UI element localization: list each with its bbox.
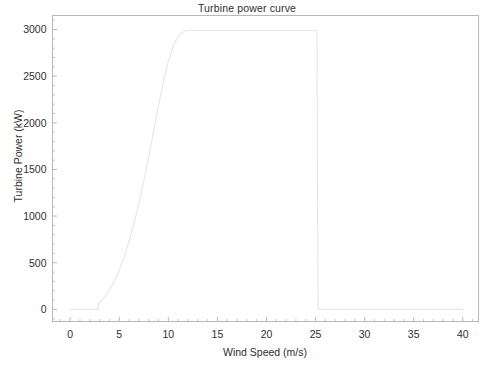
svg-text:3000: 3000 [23, 23, 47, 35]
svg-text:2000: 2000 [23, 117, 47, 129]
svg-text:20: 20 [261, 328, 273, 340]
svg-text:5: 5 [116, 328, 122, 340]
svg-text:1500: 1500 [23, 163, 47, 175]
svg-text:0: 0 [67, 328, 73, 340]
svg-text:2500: 2500 [23, 70, 47, 82]
svg-text:30: 30 [359, 328, 371, 340]
chart-figure: Turbine power curve Turbine Power (kW) W… [0, 0, 494, 366]
svg-text:15: 15 [212, 328, 224, 340]
svg-text:40: 40 [457, 328, 469, 340]
minor-ticks [53, 20, 473, 321]
plot-area: 0510152025303540050010001500200025003000 [0, 0, 494, 366]
svg-text:10: 10 [162, 328, 174, 340]
major-ticks [53, 29, 463, 321]
svg-text:1000: 1000 [23, 210, 47, 222]
tick-labels: 0510152025303540050010001500200025003000 [23, 23, 469, 339]
svg-text:0: 0 [41, 303, 47, 315]
svg-text:500: 500 [29, 257, 47, 269]
data-series-line [70, 30, 463, 309]
svg-text:35: 35 [408, 328, 420, 340]
svg-text:25: 25 [310, 328, 322, 340]
